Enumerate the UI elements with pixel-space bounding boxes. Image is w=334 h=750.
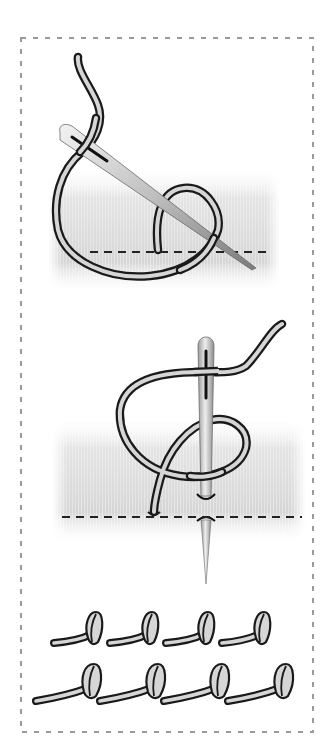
knot-row-1 — [54, 612, 270, 644]
panel-step-3 — [36, 612, 293, 701]
knot — [36, 664, 101, 701]
knot — [110, 612, 158, 644]
panel-step-2 — [52, 324, 306, 584]
knot — [100, 664, 165, 701]
knot — [54, 612, 102, 644]
knot — [164, 664, 229, 701]
stitch-diagram — [0, 0, 334, 750]
knot — [222, 612, 270, 644]
thread-front — [193, 371, 219, 372]
knot — [228, 664, 293, 701]
knot — [166, 612, 214, 644]
panel-step-1 — [48, 57, 280, 295]
thread-loop-front — [190, 472, 222, 477]
knot-row-2 — [36, 664, 293, 701]
